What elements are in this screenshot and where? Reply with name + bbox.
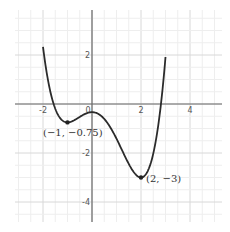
global-minimum-point xyxy=(139,175,143,179)
y-tick-label: -4 xyxy=(82,198,90,207)
x-tick-label: 2 xyxy=(138,106,143,115)
grid xyxy=(15,10,222,222)
x-tick-label: -2 xyxy=(39,106,47,115)
point-label-a: (−1, −0.75) xyxy=(43,127,103,138)
y-tick-label: -2 xyxy=(82,149,90,158)
function-graph: -20242-2-4 (−1, −0.75) (2, −3) xyxy=(0,0,230,232)
point-label-b: (2, −3) xyxy=(146,173,181,184)
x-tick-label: 4 xyxy=(187,106,192,115)
local-minimum-point xyxy=(65,120,69,124)
y-tick-label: 2 xyxy=(85,51,90,60)
